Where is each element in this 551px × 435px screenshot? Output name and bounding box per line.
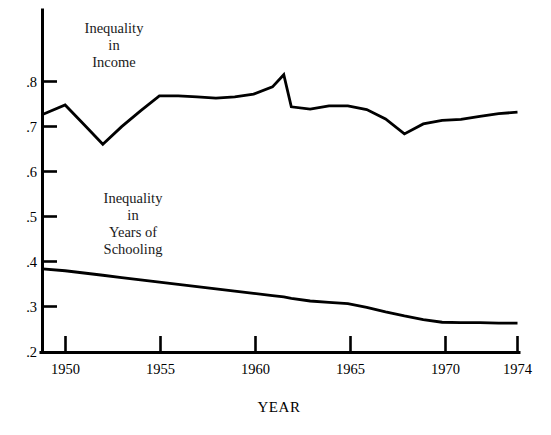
income-annotation-line-2: in (108, 37, 120, 53)
x-axis-title: YEAR (257, 399, 300, 415)
x-tick-label-1970: 1970 (431, 361, 460, 377)
x-axis-tick-labels: 1950 1955 1960 1965 1970 1974 (51, 361, 533, 377)
schooling-annotation-line-4: Schooling (104, 241, 163, 257)
series-line-schooling (43, 269, 518, 323)
x-tick-label-1955: 1955 (146, 361, 175, 377)
line-chart: .8 .7 .6 .5 .4 .3 .2 1950 1955 1960 1965… (0, 0, 551, 435)
chart-figure: .8 .7 .6 .5 .4 .3 .2 1950 1955 1960 1965… (0, 0, 551, 435)
income-annotation-line-1: Inequality (85, 20, 145, 36)
series-schooling-annotation: Inequality in Years of Schooling (104, 190, 164, 257)
x-tick-label-1974: 1974 (503, 361, 533, 377)
x-tick-label-1965: 1965 (336, 361, 365, 377)
x-tick-label-1960: 1960 (241, 361, 270, 377)
y-tick-label-0.8: .8 (26, 74, 37, 90)
income-annotation-line-3: Income (92, 54, 135, 70)
y-tick-label-0.7: .7 (26, 119, 37, 135)
x-tick-label-1950: 1950 (51, 361, 80, 377)
y-axis-ticks (43, 82, 57, 307)
series-income-annotation: Inequality in Income (85, 20, 145, 70)
y-tick-label-0.6: .6 (26, 164, 37, 180)
schooling-annotation-line-1: Inequality (104, 190, 164, 206)
schooling-annotation-line-3: Years of (109, 224, 157, 240)
y-axis-tick-labels: .8 .7 .6 .5 .4 .3 .2 (26, 74, 38, 360)
y-tick-label-0.5: .5 (26, 209, 37, 225)
series-line-income (43, 75, 518, 145)
schooling-annotation-line-2: in (127, 207, 139, 223)
y-tick-label-0.4: .4 (26, 254, 38, 270)
y-tick-label-0.2: .2 (26, 344, 37, 360)
x-axis-ticks (66, 336, 518, 351)
y-tick-label-0.3: .3 (26, 299, 37, 315)
